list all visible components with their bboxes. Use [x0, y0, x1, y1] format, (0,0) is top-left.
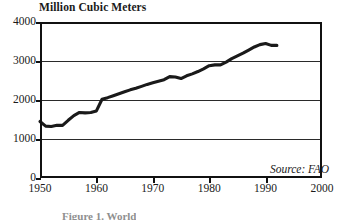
- plot-area: [40, 22, 322, 178]
- x-tick-label-1960: 1960: [85, 182, 108, 194]
- x-tick-mark-1960: [96, 178, 98, 183]
- chart-figure: Million Cubic Meters 40003000200010000 1…: [0, 0, 339, 220]
- x-tick-mark-1970: [153, 178, 155, 183]
- x-tick-label-1990: 1990: [254, 182, 277, 194]
- plot-frame-border: [40, 22, 322, 178]
- x-tick-label-1950: 1950: [29, 182, 52, 194]
- y-tick-label-3000: 3000: [13, 55, 36, 67]
- y-tick-label-1000: 1000: [13, 133, 36, 145]
- source-annotation: Source: FAO: [270, 163, 329, 175]
- x-tick-label-1970: 1970: [141, 182, 164, 194]
- x-tick-label-1980: 1980: [198, 182, 221, 194]
- x-tick-label-2000: 2000: [311, 182, 334, 194]
- x-tick-mark-1980: [209, 178, 211, 183]
- figure-caption: Figure 1. World: [62, 210, 136, 220]
- y-tick-label-4000: 4000: [13, 16, 36, 28]
- y-tick-label-2000: 2000: [13, 94, 36, 106]
- chart-title: Million Cubic Meters: [39, 0, 146, 14]
- x-tick-mark-1990: [266, 178, 268, 183]
- y-tick-mark-0: [36, 178, 41, 180]
